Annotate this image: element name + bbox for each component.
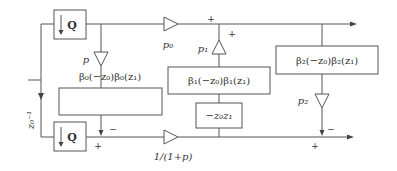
beta0-label: β₀(−z₀)β₀(z₁) bbox=[79, 71, 141, 82]
z0z1-label: −z₀z₁ bbox=[206, 110, 233, 121]
arrow-down-icon bbox=[320, 130, 325, 136]
gain-p2-triangle bbox=[315, 94, 329, 108]
beta0-block bbox=[59, 88, 162, 115]
beta2-label: β₂(−z₀)β₂(z₁) bbox=[296, 55, 358, 66]
gain-p1-triangle bbox=[212, 40, 226, 54]
sign-minus: − bbox=[109, 124, 117, 134]
gain-p-triangle bbox=[94, 52, 108, 66]
gain-p2-label: p₂ bbox=[298, 95, 308, 106]
arrow-down-icon bbox=[38, 93, 44, 100]
delay-label: z₀⁻¹ bbox=[25, 111, 36, 131]
sign-plus: + bbox=[228, 29, 236, 39]
gain-p0-label: p₀ bbox=[163, 39, 173, 50]
arrow-right-icon bbox=[350, 22, 357, 27]
gain-inv-label: 1/(1+p) bbox=[154, 151, 193, 162]
sign-minus: − bbox=[327, 124, 335, 134]
sign-plus: + bbox=[94, 141, 102, 151]
signal-flow-diagram: Q Q β₀(−z₀)β₀(z₁) β₁(−z₀)β₁(z₁) β₂(−z₀)β… bbox=[0, 0, 397, 171]
q-bottom-label: Q bbox=[67, 131, 77, 144]
gain-p0-triangle bbox=[164, 17, 178, 31]
gain-p1-label: p₁ bbox=[198, 43, 208, 54]
arrow-down-icon bbox=[99, 130, 104, 136]
gain-inv-triangle bbox=[164, 130, 178, 144]
beta1-label: β₁(−z₀)β₁(z₁) bbox=[188, 75, 250, 86]
q-top-label: Q bbox=[67, 19, 77, 32]
sign-plus: + bbox=[207, 14, 215, 24]
sign-plus: + bbox=[311, 141, 319, 151]
gain-p-label: p bbox=[83, 54, 90, 65]
arrow-right-icon bbox=[347, 135, 354, 140]
